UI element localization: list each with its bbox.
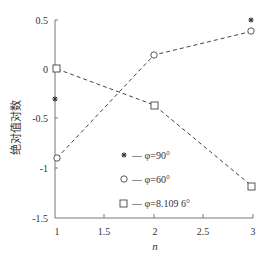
y-tick-label: -0.5 [32,113,48,124]
x-tick-label: 1 [55,226,60,237]
series-markers-phi-90 [53,18,254,102]
legend-label: — φ=60° [131,174,170,185]
x-tick-labels: 1 1.5 2 2.5 3 [55,226,256,237]
x-tick-label: 2.5 [197,226,210,237]
y-tick-label: 0.5 [36,15,49,26]
legend-label: — φ=90° [131,150,170,161]
y-tick-labels: 0.5 0 -0.5 -1 -1.5 [32,15,48,224]
series-markers-phi-8-1096 [53,65,255,190]
legend-label: — φ=8.109 6° [131,198,190,209]
legend-item-phi-90: — φ=90° [122,150,170,161]
legend-item-phi-60: — φ=60° [121,174,170,185]
circle-marker [54,155,60,161]
x-tick-label: 3 [251,226,256,237]
y-axis-title: 绝对值对数 [9,100,22,155]
axes [55,20,253,218]
y-tick-label: 0 [43,64,48,75]
series-markers-phi-60 [54,28,254,161]
circle-icon [121,176,127,182]
square-marker [248,183,255,190]
x-tick-label: 2 [153,226,158,237]
square-icon [120,200,127,207]
star-marker [53,97,58,102]
x-tick-label: 1.5 [98,226,111,237]
x-axis-title: n [152,240,158,252]
y-tick-label: -1 [40,163,48,174]
legend: — φ=90° — φ=60° — φ=8.109 6° [120,150,190,209]
legend-item-phi-8-1096: — φ=8.109 6° [120,198,190,209]
star-marker [249,18,254,23]
series-line-phi-60 [57,31,253,158]
star-icon [122,153,127,158]
y-tick-label: -1.5 [32,213,48,224]
circle-marker [151,52,157,58]
square-marker [151,102,158,109]
series-line-phi-8-1096 [57,69,253,187]
chart: 0.5 0 -0.5 -1 -1.5 1 1.5 2 2.5 3 n 绝对值对数 [0,0,263,260]
circle-marker [248,28,254,34]
square-marker [53,65,60,72]
